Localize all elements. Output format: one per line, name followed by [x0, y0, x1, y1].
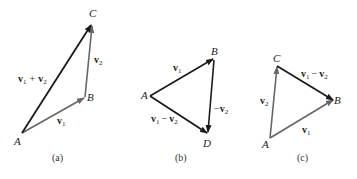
label-v1-minus-v2: v1−v2 — [301, 68, 328, 81]
label-v1: v1 — [302, 124, 311, 137]
vector-v2-a — [85, 26, 92, 97]
panel-b: A B D v1 −v2 v1−v2 (b) — [140, 45, 229, 164]
point-c-label: C — [89, 7, 97, 19]
point-b-label: B — [334, 94, 341, 106]
vector-v1-a — [22, 98, 84, 133]
caption-b: (b) — [175, 152, 187, 164]
vector-diff-b — [150, 96, 207, 133]
point-a-label: A — [13, 135, 21, 147]
label-v2: v2 — [260, 95, 269, 108]
vector-neg-v2-b — [208, 60, 214, 132]
vector-v1-b — [150, 59, 213, 96]
label-v1-minus-v2: v1−v2 — [151, 113, 178, 126]
label-v2: v2 — [94, 54, 103, 67]
point-b-label: B — [211, 45, 218, 57]
label-v1: v1 — [173, 62, 182, 75]
point-a-label: A — [261, 138, 269, 150]
label-v1: v1 — [57, 115, 66, 128]
point-d-label: D — [202, 137, 211, 149]
vector-v2-c — [270, 67, 277, 138]
vector-diagram: A B C v1+v2 v2 v1 (a) A B D v1 −v2 v1−v2… — [0, 0, 357, 179]
point-a-label: A — [140, 89, 148, 101]
label-neg-v2: −v2 — [214, 103, 229, 116]
panel-c: A B C v2 v1 v1−v2 (c) — [260, 52, 341, 164]
panel-a: A B C v1+v2 v2 v1 (a) — [13, 7, 103, 164]
label-v1-plus-v2: v1+v2 — [18, 73, 47, 86]
point-b-label: B — [87, 91, 94, 103]
point-c-label: C — [273, 52, 281, 64]
caption-c: (c) — [297, 152, 308, 164]
caption-a: (a) — [52, 152, 63, 164]
